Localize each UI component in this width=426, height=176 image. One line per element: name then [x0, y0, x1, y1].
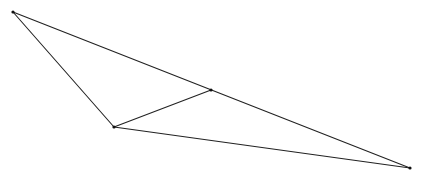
point-A: [11, 10, 14, 13]
segment-BC: [114, 127, 410, 168]
segment-BD: [114, 90, 211, 127]
point-D: [209, 88, 212, 91]
point-C: [408, 166, 411, 169]
points-group: [11, 10, 411, 169]
point-B: [112, 125, 115, 128]
diagram-canvas: [0, 0, 426, 176]
segment-AB: [13, 12, 114, 127]
triangle-diagram: [0, 0, 426, 176]
